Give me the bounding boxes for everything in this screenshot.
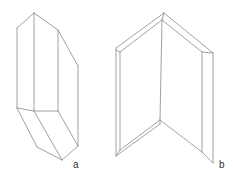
- edge-line: [164, 13, 213, 53]
- edge-line: [17, 13, 34, 28]
- edge-line: [202, 152, 213, 163]
- figure-label-a: a: [73, 160, 79, 170]
- edge-line: [162, 20, 202, 52]
- edge-line: [34, 13, 58, 30]
- edge-line: [58, 30, 78, 66]
- edge-line: [160, 20, 162, 120]
- edge-line: [120, 20, 162, 52]
- edge-line: [116, 150, 120, 156]
- edge-line: [120, 120, 160, 150]
- edge-line: [116, 13, 164, 48]
- edge-line: [17, 108, 37, 147]
- edge-line: [58, 111, 78, 146]
- edge-line: [62, 146, 78, 160]
- folded-panel-figure-b: [116, 13, 213, 163]
- edge-line: [116, 50, 120, 52]
- crystal-prism-figure-a: [17, 13, 78, 160]
- figure-label-b: b: [219, 160, 225, 170]
- edge-line: [17, 108, 34, 111]
- edge-line: [116, 124, 160, 156]
- edge-line: [160, 120, 202, 152]
- diagram-canvas: [0, 0, 233, 190]
